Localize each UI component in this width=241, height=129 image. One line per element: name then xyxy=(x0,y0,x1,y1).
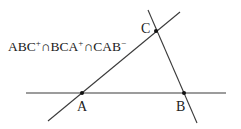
point-C xyxy=(154,29,158,33)
expr-part-3: ∩CAB xyxy=(83,39,121,54)
label-B: B xyxy=(176,99,185,114)
expr-part-1: ABC xyxy=(8,39,36,54)
expr-part-2: ∩BCA xyxy=(41,39,79,54)
point-A xyxy=(80,91,84,95)
point-B xyxy=(182,91,186,95)
expr-sup-3: − xyxy=(121,38,126,48)
label-C: C xyxy=(141,21,150,36)
geometry-diagram: A B C ABC+∩BCA+∩CAB− xyxy=(0,0,241,129)
line-BC xyxy=(148,10,197,123)
line-AC xyxy=(48,12,180,121)
intersection-expression: ABC+∩BCA+∩CAB− xyxy=(8,38,126,54)
label-A: A xyxy=(77,99,88,114)
